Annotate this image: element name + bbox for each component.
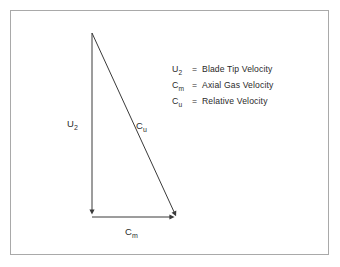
vector-label-u2: U2 xyxy=(67,118,78,129)
legend-description-cm: Axial Gas Velocity xyxy=(202,80,273,90)
legend-symbol-cu-subscript: u xyxy=(179,101,183,108)
legend-item-u2: U2 = Blade Tip Velocity xyxy=(172,64,273,80)
vector-label-cu-symbol: C xyxy=(136,120,143,131)
legend-description-u2: Blade Tip Velocity xyxy=(202,64,273,74)
legend-symbol-u2: U2 xyxy=(172,64,187,74)
legend-item-cm: Cm = Axial Gas Velocity xyxy=(172,80,273,96)
vector-label-cu: Cu xyxy=(136,120,147,131)
figure-canvas: U2 Cu Cm U2 = Blade Tip Velocity Cm = Ax… xyxy=(0,0,340,267)
vector-label-cu-subscript: u xyxy=(143,126,147,133)
legend-item-cu: Cu = Relative Velocity xyxy=(172,96,273,112)
legend-symbol-cm-subscript: m xyxy=(179,85,185,92)
velocity-triangle-diagram xyxy=(0,0,340,267)
legend-separator: = xyxy=(187,96,202,106)
vector-cu-line xyxy=(92,33,175,214)
legend-separator: = xyxy=(187,64,202,74)
vector-label-u2-subscript: 2 xyxy=(74,124,78,131)
vector-label-cm-subscript: m xyxy=(132,232,138,239)
vector-label-cm-symbol: C xyxy=(125,226,132,237)
legend: U2 = Blade Tip Velocity Cm = Axial Gas V… xyxy=(172,64,273,112)
vector-label-cm: Cm xyxy=(125,226,138,237)
legend-symbol-u2-subscript: 2 xyxy=(179,69,183,76)
legend-separator: = xyxy=(187,80,202,90)
vector-label-u2-symbol: U xyxy=(67,118,74,129)
legend-symbol-cm: Cm xyxy=(172,80,187,90)
legend-symbol-cu: Cu xyxy=(172,96,187,106)
legend-description-cu: Relative Velocity xyxy=(202,96,268,106)
